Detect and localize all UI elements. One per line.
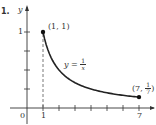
point-label-1-1: (1, 1) (48, 23, 70, 31)
curve-label-lhs: y = (64, 60, 78, 69)
origin-label: 0 (20, 112, 25, 120)
point-1-1 (41, 30, 45, 34)
curve-label: y = 1 x (64, 58, 86, 71)
y-axis-arrow-icon (25, 5, 29, 11)
curve-label-fraction: 1 x (80, 58, 86, 71)
curve-y-equals-1-over-x (43, 32, 139, 97)
point-label-7-one-seventh: (7, 1 7 ) (132, 82, 154, 95)
x-tick-label-1: 1 (41, 112, 46, 120)
y-tick-label-1: 1 (18, 28, 23, 36)
point-7-one-seventh (137, 95, 141, 99)
x-axis-arrow-icon (150, 106, 155, 110)
y-axis-label: y (18, 6, 23, 14)
x-tick-label-7: 7 (137, 112, 142, 120)
problem-label: 1. (1, 8, 10, 16)
